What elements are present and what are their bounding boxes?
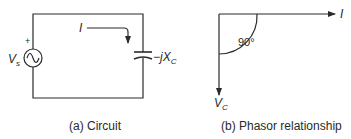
phasor-diagram (219, 14, 335, 95)
sine-wave-icon (27, 54, 39, 63)
circuit-wire (33, 58, 143, 98)
circuit-caption: (a) Circuit (69, 119, 122, 133)
angle-arc (219, 14, 257, 54)
diagram-canvas: + Vs I −jXC (a) Circuit I 90° VC (b) Pha… (0, 0, 351, 139)
circuit-diagram (24, 14, 152, 98)
current-label: I (79, 21, 83, 35)
phasor-caption: (b) Phasor relationship (221, 119, 342, 133)
angle-label: 90° (238, 36, 255, 48)
current-arrow (87, 28, 128, 43)
phasor-voltage-label: VC (214, 96, 228, 112)
phasor-current-label: I (340, 7, 344, 21)
source-polarity-plus: + (25, 36, 30, 46)
impedance-label: −jXC (153, 50, 177, 66)
circuit-wire (33, 14, 143, 52)
source-voltage-label: Vs (8, 52, 20, 68)
